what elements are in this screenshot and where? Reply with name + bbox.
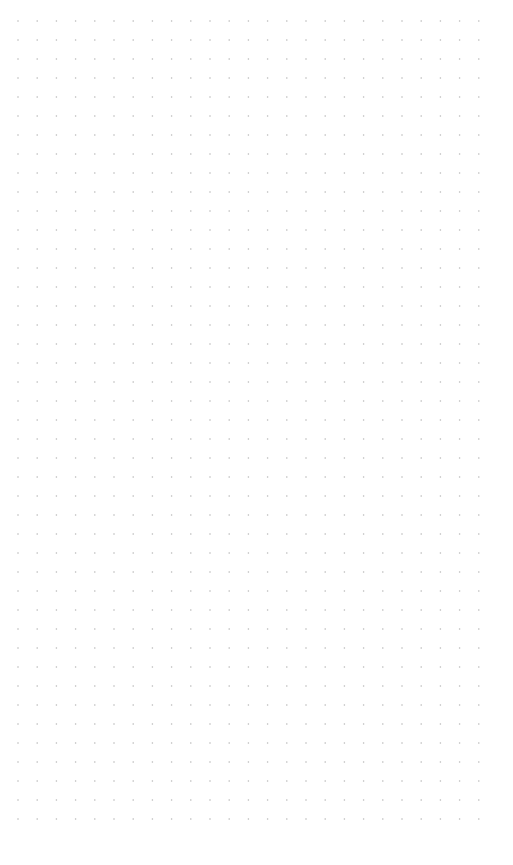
dot-grid: [0, 0, 513, 865]
dot-grid-canvas[interactable]: [0, 0, 513, 865]
